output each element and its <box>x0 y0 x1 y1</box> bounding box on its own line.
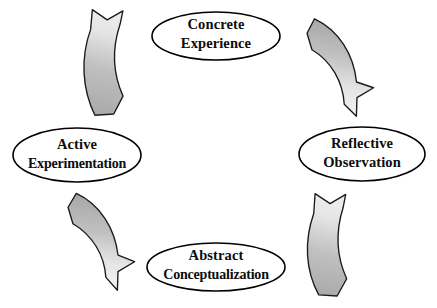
node-active-experimentation[interactable]: Active Experimentation <box>13 128 141 182</box>
concrete-experience-label-line2: Experience <box>181 35 252 51</box>
arrow-reflective-to-abstract <box>269 179 392 304</box>
abstract-conceptualization-label-line1: Abstract <box>189 247 244 263</box>
abstract-conceptualization-label-line2: Conceptualization <box>163 267 269 282</box>
reflective-observation-label-line1: Reflective <box>331 135 394 151</box>
cycle-diagram-canvas: Concrete Experience Reflective Observati… <box>0 0 437 308</box>
node-reflective-observation[interactable]: Reflective Observation <box>299 127 425 181</box>
experiential-learning-cycle-diagram: Concrete Experience Reflective Observati… <box>0 0 437 308</box>
reflective-observation-label-line2: Observation <box>323 154 401 170</box>
arrow-abstract-to-active <box>45 192 150 290</box>
arrow-active-to-concrete <box>44 0 169 123</box>
active-experimentation-label-line1: Active <box>57 136 98 152</box>
node-abstract-conceptualization[interactable]: Abstract Conceptualization <box>147 243 285 291</box>
active-experimentation-label-line2: Experimentation <box>28 156 127 171</box>
concrete-experience-label-line1: Concrete <box>188 16 245 32</box>
node-concrete-experience[interactable]: Concrete Experience <box>152 12 280 60</box>
arrow-concrete-to-reflective <box>283 17 389 116</box>
